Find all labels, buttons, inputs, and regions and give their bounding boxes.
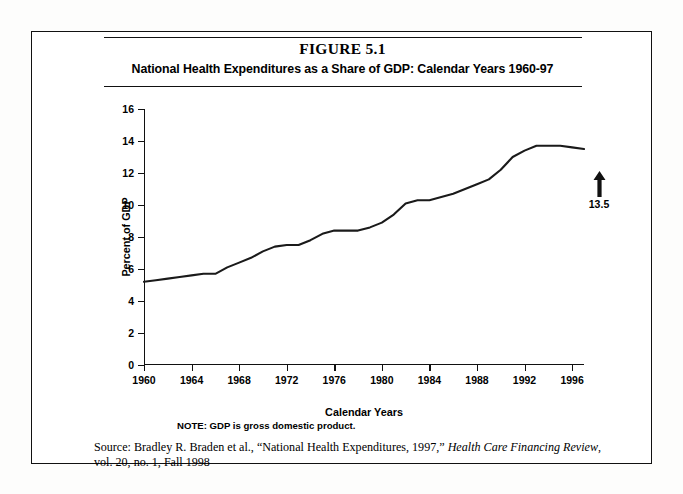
x-tick-label-1980: 1980: [370, 374, 393, 386]
x-tick-1992: [525, 365, 526, 371]
y-tick-label-10: 10: [122, 199, 134, 211]
figure-number: FIGURE 5.1: [32, 40, 653, 58]
source-line-two: vol. 20, no. 1, Fall 1998: [94, 455, 210, 469]
series-line-chart: [144, 109, 584, 365]
figure-frame: FIGURE 5.1 National Health Expenditures …: [31, 31, 652, 464]
x-tick-1984: [429, 365, 430, 371]
x-tick-1960: [144, 365, 145, 371]
x-tick-1988: [477, 365, 478, 371]
source-prefix: Source: Bradley R. Braden et al., “Natio…: [94, 440, 448, 454]
x-tick-label-1988: 1988: [465, 374, 488, 386]
series-line-nhe-share: [144, 146, 584, 282]
source-suffix: ,: [598, 440, 601, 454]
x-tick-label-1984: 1984: [418, 374, 441, 386]
x-tick-label-1976: 1976: [323, 374, 346, 386]
x-tick-1976: [334, 365, 335, 371]
x-tick-label-1996: 1996: [560, 374, 583, 386]
title-rule-top: [104, 37, 582, 38]
y-tick-label-8: 8: [128, 231, 134, 243]
x-tick-1968: [239, 365, 240, 371]
x-tick-1964: [192, 365, 193, 371]
x-tick-label-1960: 1960: [132, 374, 155, 386]
up-arrow-icon: [593, 171, 606, 197]
x-tick-1996: [572, 365, 573, 371]
source-citation: Source: Bradley R. Braden et al., “Natio…: [94, 440, 614, 469]
y-tick-label-14: 14: [122, 135, 134, 147]
title-rule-bottom: [104, 86, 582, 87]
x-tick-label-1992: 1992: [513, 374, 536, 386]
x-tick-1972: [287, 365, 288, 371]
y-tick-label-2: 2: [128, 327, 134, 339]
y-tick-label-12: 12: [122, 167, 134, 179]
y-tick-label-16: 16: [122, 103, 134, 115]
y-tick-label-4: 4: [128, 295, 134, 307]
x-tick-label-1964: 1964: [180, 374, 203, 386]
chart-note: NOTE: GDP is gross domestic product.: [177, 420, 355, 431]
source-journal-title: Health Care Financing Review: [448, 440, 598, 454]
x-tick-label-1972: 1972: [275, 374, 298, 386]
figure-subtitle: National Health Expenditures as a Share …: [32, 62, 653, 76]
chart-plot-area: Percent of GDP 0246810121416 19601964196…: [144, 109, 584, 365]
y-tick-label-0: 0: [128, 359, 134, 371]
x-tick-1980: [382, 365, 383, 371]
endpoint-value-label: 13.5: [569, 198, 629, 210]
x-axis-title: Calendar Years: [144, 406, 584, 418]
y-tick-label-6: 6: [128, 263, 134, 275]
x-tick-label-1968: 1968: [227, 374, 250, 386]
endpoint-annotation: 13.5: [569, 171, 629, 210]
